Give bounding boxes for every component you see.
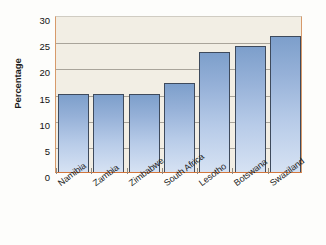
plot-area (55, 16, 302, 173)
bars-layer (56, 17, 301, 172)
y-axis-tick-label: 25 (26, 42, 50, 52)
bar (58, 94, 89, 173)
bar (270, 36, 301, 172)
bar (235, 46, 266, 172)
x-axis-tick-mark (268, 168, 269, 174)
y-axis-tick-labels: 051015202530 (26, 10, 50, 180)
x-axis-tick-mark (162, 168, 163, 174)
x-axis-tick-mark (56, 168, 57, 174)
y-axis-tick-label: 30 (26, 16, 50, 26)
y-axis-tick-label: 20 (26, 68, 50, 78)
bar (199, 52, 230, 172)
bar (93, 94, 124, 173)
x-axis-tick-mark (91, 168, 92, 174)
y-axis-tick-label: 15 (26, 95, 50, 105)
y-axis-tick-label: 5 (26, 147, 50, 157)
y-axis-title: Percentage (12, 46, 23, 122)
bar-chart-figure: Percentage 051015202530 NamibiaZambiaZim… (0, 0, 326, 245)
x-axis-tick-labels: NamibiaZambiaZimbabweSouth AfricaLesotho… (0, 176, 326, 245)
x-axis-tick-mark (127, 168, 128, 174)
x-axis-tick-mark (197, 168, 198, 174)
y-axis-tick-label: 10 (26, 121, 50, 131)
x-axis-tick-mark (232, 168, 233, 174)
